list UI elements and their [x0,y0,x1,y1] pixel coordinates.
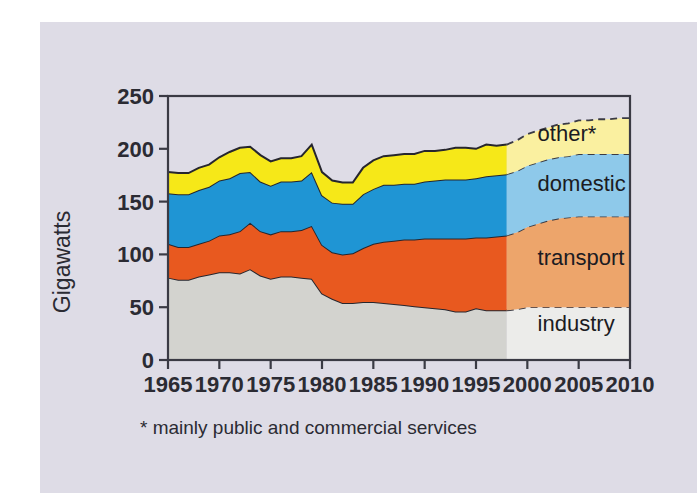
series-label-other: other* [538,121,597,146]
series-label-domestic: domestic [538,171,626,196]
y-tick-label: 200 [117,137,154,162]
x-tick-label: 1995 [452,372,501,397]
x-tick-label: 1975 [246,372,295,397]
footnote: * mainly public and commercial services [140,417,477,438]
x-tick-label: 1990 [400,372,449,397]
y-axis-title: Gigawatts [49,211,75,313]
x-tick-label: 1980 [298,372,347,397]
series-label-transport: transport [538,245,625,270]
x-tick-label: 2010 [606,372,655,397]
y-tick-label: 50 [130,295,154,320]
x-tick-label: 1965 [144,372,193,397]
x-tick-label: 1985 [349,372,398,397]
stacked-area-chart: 0501001502002501965197019751980198519901… [40,22,697,493]
y-tick-label: 150 [117,190,154,215]
series-label-industry: industry [538,311,615,336]
y-tick-label: 250 [117,84,154,109]
figure-panel: 0501001502002501965197019751980198519901… [40,22,697,493]
y-tick-label: 100 [117,242,154,267]
x-tick-label: 2000 [503,372,552,397]
y-tick-label: 0 [142,348,154,373]
x-tick-label: 1970 [195,372,244,397]
x-tick-label: 2005 [554,372,603,397]
